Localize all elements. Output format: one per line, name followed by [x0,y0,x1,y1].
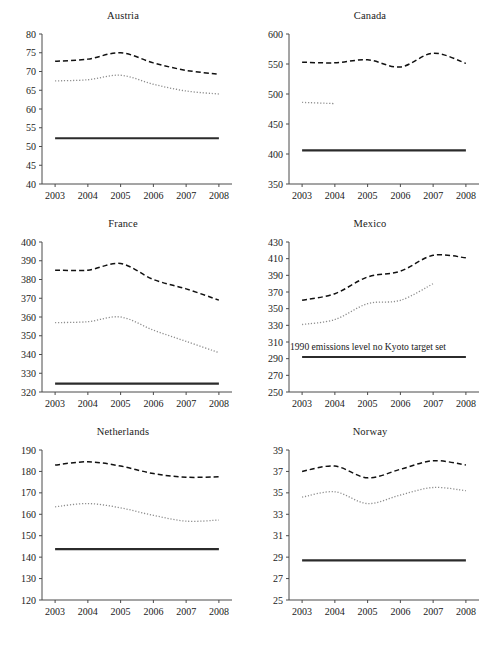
y-tick-label: 33 [273,509,283,520]
x-tick-label: 2003 [45,190,65,201]
x-tick-label: 2008 [209,606,229,617]
x-tick-label: 2006 [390,190,410,201]
series-line-dashed [302,461,466,478]
x-tick-label: 2007 [176,398,196,409]
y-tick-label: 600 [268,29,283,40]
x-tick-label: 2005 [111,190,131,201]
y-tick-label: 290 [268,353,283,364]
multi-panel-line-chart-figure: Austria404550556065707580200320042005200… [0,0,493,646]
y-tick-label: 500 [268,89,283,100]
y-tick-label: 37 [273,466,283,477]
y-tick-label: 400 [268,149,283,160]
y-tick-label: 170 [21,487,36,498]
y-tick-label: 310 [268,337,283,348]
y-tick-label: 250 [268,387,283,398]
x-tick-label: 2005 [358,606,378,617]
x-tick-label: 2008 [209,398,229,409]
y-tick-label: 27 [273,573,283,584]
y-tick-label: 65 [26,85,36,96]
y-tick-label: 190 [21,445,36,456]
x-tick-label: 2007 [176,606,196,617]
x-tick-label: 2003 [45,398,65,409]
x-tick-label: 2008 [456,606,476,617]
plot-area: 1201301401501601701801902003200420052006… [0,426,246,634]
y-tick-label: 330 [268,320,283,331]
y-tick-label: 75 [26,47,36,58]
x-tick-label: 2003 [292,398,312,409]
x-tick-label: 2004 [78,398,98,409]
x-tick-label: 2004 [325,606,345,617]
series-line-dashed [302,53,466,67]
x-tick-label: 2006 [390,606,410,617]
y-tick-label: 320 [21,387,36,398]
y-tick-label: 35 [273,487,283,498]
y-tick-label: 140 [21,552,36,563]
panel-title: Austria [0,10,246,21]
plot-area: 2527293133353739200320042005200620072008 [247,426,493,634]
x-tick-label: 2008 [456,190,476,201]
x-tick-label: 2008 [209,190,229,201]
series-line-dashed [55,263,219,300]
series-line-dotted [302,102,335,103]
cropped-header-text [0,0,493,3]
y-tick-label: 410 [268,253,283,264]
y-tick-label: 270 [268,370,283,381]
x-tick-label: 2005 [111,398,131,409]
x-tick-label: 2003 [292,606,312,617]
y-tick-label: 350 [21,330,36,341]
y-tick-label: 39 [273,445,283,456]
panel-title: Netherlands [0,426,246,437]
series-line-dotted [55,317,219,353]
series-line-dashed [55,462,219,478]
y-tick-label: 130 [21,573,36,584]
plot-area: 3203303403503603703803904002003200420052… [0,218,246,426]
x-tick-label: 2007 [176,190,196,201]
y-tick-label: 400 [21,237,36,248]
chart-panel-france: France3203303403503603703803904002003200… [0,218,246,426]
y-tick-label: 60 [26,104,36,115]
y-tick-label: 450 [268,119,283,130]
y-tick-label: 350 [268,179,283,190]
x-tick-label: 2004 [78,190,98,201]
y-tick-label: 29 [273,552,283,563]
y-tick-label: 340 [21,349,36,360]
x-tick-label: 2006 [143,190,163,201]
series-line-dotted [302,284,433,325]
y-tick-label: 50 [26,141,36,152]
series-line-dotted [55,75,219,94]
x-tick-label: 2003 [45,606,65,617]
y-tick-label: 350 [268,303,283,314]
y-tick-label: 550 [268,59,283,70]
x-tick-label: 2005 [358,190,378,201]
x-tick-label: 2007 [423,398,443,409]
y-tick-label: 390 [21,255,36,266]
x-tick-label: 2006 [390,398,410,409]
x-tick-label: 2003 [292,190,312,201]
plot-area: 2502702903103303503703904104302003200420… [247,218,493,426]
x-tick-label: 2006 [143,398,163,409]
y-tick-label: 330 [21,368,36,379]
y-tick-label: 70 [26,66,36,77]
y-tick-label: 390 [268,270,283,281]
plot-area: 3504004505005506002003200420052006200720… [247,10,493,218]
series-line-dashed [55,53,219,74]
series-line-dashed [302,255,466,301]
y-tick-label: 180 [21,466,36,477]
chart-panel-norway: Norway2527293133353739200320042005200620… [247,426,493,634]
y-tick-label: 80 [26,29,36,40]
chart-panel-canada: Canada3504004505005506002003200420052006… [247,10,493,218]
panel-title: Mexico [247,218,493,229]
chart-panel-netherlands: Netherlands12013014015016017018019020032… [0,426,246,634]
y-tick-label: 430 [268,237,283,248]
kyoto-annotation-label: 1990 emissions level no Kyoto target set [290,341,446,352]
y-tick-label: 380 [21,274,36,285]
x-tick-label: 2007 [423,606,443,617]
y-tick-label: 370 [268,287,283,298]
x-tick-label: 2005 [111,606,131,617]
panel-grid: Austria404550556065707580200320042005200… [0,10,493,634]
chart-panel-austria: Austria404550556065707580200320042005200… [0,10,246,218]
x-tick-label: 2004 [325,398,345,409]
x-tick-label: 2005 [358,398,378,409]
y-tick-label: 360 [21,312,36,323]
y-tick-label: 160 [21,509,36,520]
